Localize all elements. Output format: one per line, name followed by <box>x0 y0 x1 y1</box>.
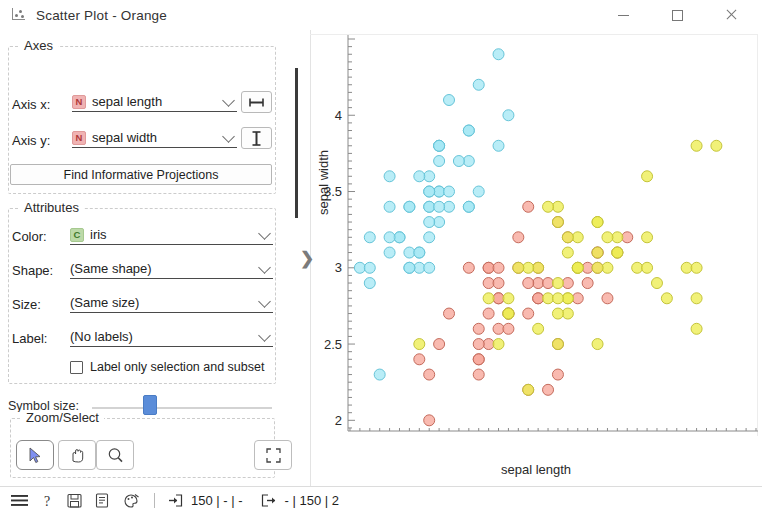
scatter-point[interactable] <box>533 278 544 289</box>
select-tool-button[interactable] <box>16 440 54 470</box>
scatter-point[interactable] <box>424 262 435 273</box>
scatter-point[interactable] <box>552 308 563 319</box>
scatter-point[interactable] <box>503 323 514 334</box>
scatter-point[interactable] <box>552 293 563 304</box>
scatter-point[interactable] <box>434 186 445 197</box>
scatter-series-iris-setosa[interactable] <box>354 49 514 380</box>
scatter-point[interactable] <box>384 171 395 182</box>
scatter-point[interactable] <box>552 201 563 212</box>
scatter-plot-canvas[interactable]: 4.555.566.577.522.533.54 <box>310 34 758 436</box>
scatter-point[interactable] <box>592 339 603 350</box>
scatter-point[interactable] <box>444 308 455 319</box>
palette-button[interactable] <box>116 487 146 514</box>
scatter-point[interactable] <box>552 369 563 380</box>
scatter-point[interactable] <box>602 262 613 273</box>
scatter-point[interactable] <box>473 354 484 365</box>
scatter-point[interactable] <box>424 415 435 426</box>
minimize-button[interactable] <box>600 0 646 30</box>
scatter-point[interactable] <box>572 232 583 243</box>
scatter-point[interactable] <box>424 186 435 197</box>
shape-combo[interactable]: (Same shape) <box>70 259 273 279</box>
scatter-point[interactable] <box>503 293 514 304</box>
scatter-point[interactable] <box>463 125 474 136</box>
scatter-point[interactable] <box>434 339 445 350</box>
scatter-point[interactable] <box>473 79 484 90</box>
scatter-point[interactable] <box>552 339 563 350</box>
scatter-point[interactable] <box>612 247 623 258</box>
scatter-point[interactable] <box>384 247 395 258</box>
scatter-point[interactable] <box>493 293 504 304</box>
report-button[interactable] <box>88 487 116 514</box>
scatter-point[interactable] <box>533 323 544 334</box>
scatter-point[interactable] <box>404 262 415 273</box>
scatter-point[interactable] <box>691 293 702 304</box>
scatter-point[interactable] <box>651 278 662 289</box>
scatter-point[interactable] <box>562 278 573 289</box>
scatter-point[interactable] <box>463 201 474 212</box>
scatter-point[interactable] <box>424 232 435 243</box>
scatter-point[interactable] <box>384 201 395 212</box>
scatter-point[interactable] <box>513 232 524 243</box>
scatter-point[interactable] <box>453 156 464 167</box>
scatter-point[interactable] <box>572 293 583 304</box>
scatter-series-iris-virginica[interactable] <box>414 140 722 395</box>
scatter-point[interactable] <box>543 384 554 395</box>
scatter-point[interactable] <box>592 262 603 273</box>
scatter-point[interactable] <box>493 278 504 289</box>
menu-button[interactable] <box>4 487 34 514</box>
size-combo[interactable]: (Same size) <box>70 293 273 313</box>
scatter-point[interactable] <box>473 323 484 334</box>
scatter-point[interactable] <box>562 247 573 258</box>
scatter-point[interactable] <box>523 278 534 289</box>
scatter-point[interactable] <box>533 293 544 304</box>
scatter-point[interactable] <box>473 186 484 197</box>
scatter-point[interactable] <box>513 262 524 273</box>
scatter-point[interactable] <box>691 323 702 334</box>
scatter-point[interactable] <box>562 308 573 319</box>
scatter-point[interactable] <box>434 217 445 228</box>
scatter-point[interactable] <box>374 369 385 380</box>
scatter-point[interactable] <box>562 293 573 304</box>
scatter-point[interactable] <box>503 110 514 121</box>
axis-y-extent-button[interactable] <box>241 127 272 149</box>
scatter-point[interactable] <box>414 171 425 182</box>
scatter-point[interactable] <box>562 232 573 243</box>
scatter-point[interactable] <box>414 354 425 365</box>
pan-tool-button[interactable] <box>58 440 96 470</box>
scatter-point[interactable] <box>354 262 365 273</box>
scatter-point[interactable] <box>592 247 603 258</box>
scatter-point[interactable] <box>424 201 435 212</box>
scatter-point[interactable] <box>424 171 435 182</box>
scatter-point[interactable] <box>592 217 603 228</box>
scatter-point[interactable] <box>543 201 554 212</box>
scatter-point[interactable] <box>503 308 514 319</box>
scatter-point[interactable] <box>642 232 653 243</box>
scatter-point[interactable] <box>434 156 445 167</box>
scatter-point[interactable] <box>493 323 504 334</box>
scatter-point[interactable] <box>384 232 395 243</box>
scatter-point[interactable] <box>493 140 504 151</box>
scatter-point[interactable] <box>414 262 425 273</box>
scatter-point[interactable] <box>543 278 554 289</box>
zoom-tool-button[interactable] <box>96 440 134 470</box>
scatter-point[interactable] <box>483 308 494 319</box>
scatter-point[interactable] <box>533 262 544 273</box>
scatter-point[interactable] <box>582 262 593 273</box>
scatter-point[interactable] <box>444 186 455 197</box>
scatter-point[interactable] <box>463 156 474 167</box>
scatter-point[interactable] <box>483 339 494 350</box>
reset-zoom-button[interactable] <box>254 440 292 470</box>
scatter-point[interactable] <box>523 384 534 395</box>
scatter-point[interactable] <box>622 232 633 243</box>
scatter-point[interactable] <box>493 339 504 350</box>
scatter-point[interactable] <box>602 232 613 243</box>
scatter-point[interactable] <box>552 278 563 289</box>
axis-x-extent-button[interactable] <box>241 91 272 113</box>
save-button[interactable] <box>60 487 88 514</box>
scatter-point[interactable] <box>691 262 702 273</box>
scatter-point[interactable] <box>483 278 494 289</box>
scatter-point[interactable] <box>523 308 534 319</box>
scatter-point[interactable] <box>364 278 375 289</box>
scatter-point[interactable] <box>493 49 504 60</box>
scatter-point[interactable] <box>493 262 504 273</box>
